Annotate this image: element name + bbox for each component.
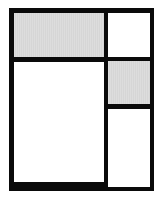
cell-bottom-left: [14, 62, 104, 182]
cell-middle-right: [108, 61, 150, 104]
cell-bottom-right: [108, 109, 150, 187]
cell-top-right: [108, 13, 150, 57]
cell-top-left: [14, 13, 104, 57]
grid-frame: [9, 8, 154, 191]
